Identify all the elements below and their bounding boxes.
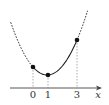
curve-dashed-left: [11, 22, 33, 67]
tick-label-3: 3: [74, 89, 80, 100]
point-x0: [31, 65, 36, 70]
tick-label-1: 1: [45, 89, 51, 100]
tick-label-0: 0: [30, 89, 36, 100]
parabola-diagram: 0 1 3 x: [0, 0, 109, 105]
point-x1: [46, 73, 51, 78]
point-x3: [75, 38, 80, 43]
curve-dashed-right: [77, 11, 88, 40]
curve-solid: [33, 40, 77, 75]
axis-label-x: x: [95, 89, 101, 100]
